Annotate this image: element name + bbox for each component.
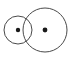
large-circle-center-dot <box>43 28 48 33</box>
diagram-canvas <box>0 0 75 60</box>
circles-diagram-svg <box>0 0 75 60</box>
small-circle-center-dot <box>16 28 20 32</box>
